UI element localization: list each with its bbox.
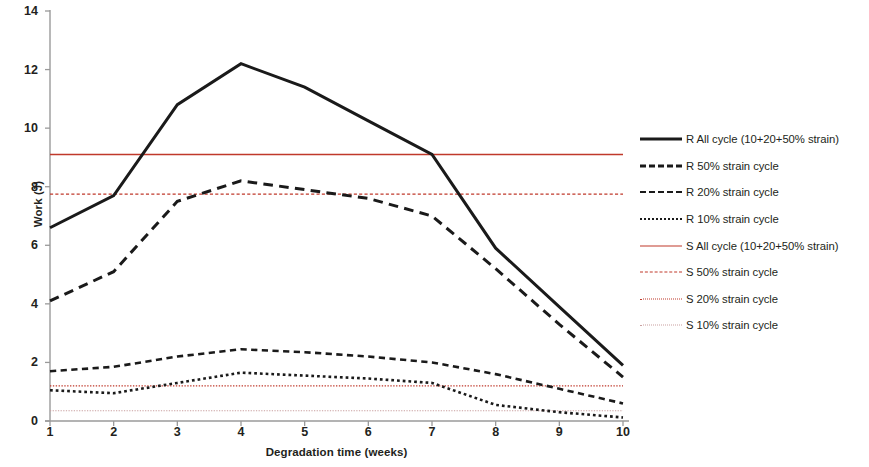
- legend-item[interactable]: R 50% strain cycle: [640, 153, 868, 180]
- legend-line-icon: [640, 133, 682, 145]
- y-tick-label: 2: [0, 355, 38, 369]
- legend-item[interactable]: R All cycle (10+20+50% strain): [640, 126, 868, 153]
- legend-line-sample: [640, 138, 682, 141]
- legend-item-label: R 50% strain cycle: [686, 160, 779, 172]
- legend-line-icon: [640, 266, 682, 278]
- series-line: [50, 64, 623, 366]
- legend-line-icon: [640, 186, 682, 198]
- series-line: [50, 373, 623, 418]
- legend-item-label: R 20% strain cycle: [686, 186, 779, 198]
- legend-item[interactable]: R 10% strain cycle: [640, 206, 868, 233]
- legend-item-label: S 50% strain cycle: [686, 266, 778, 278]
- legend-line-sample: [640, 325, 682, 326]
- y-tick-label: 8: [0, 180, 38, 194]
- x-tick-label: 3: [162, 425, 192, 439]
- legend-item[interactable]: S 10% strain cycle: [640, 312, 868, 339]
- chart-figure: Work (J) Degradation time (weeks) 024681…: [0, 0, 869, 467]
- legend-item[interactable]: S 50% strain cycle: [640, 259, 868, 286]
- legend-line-sample: [640, 272, 682, 273]
- x-tick-label: 1: [35, 425, 65, 439]
- legend-item-label: S 10% strain cycle: [686, 319, 778, 331]
- x-tick-label: 6: [353, 425, 383, 439]
- series-line: [50, 181, 623, 377]
- x-tick-label: 2: [99, 425, 129, 439]
- legend-item-label: S All cycle (10+20+50% strain): [686, 240, 838, 252]
- legend-line-icon: [640, 213, 682, 225]
- x-tick-label: 7: [417, 425, 447, 439]
- legend-line-sample: [640, 191, 682, 193]
- legend-line-icon: [640, 293, 682, 305]
- x-tick-label: 8: [481, 425, 511, 439]
- chart-legend: R All cycle (10+20+50% strain)R 50% stra…: [640, 126, 868, 339]
- y-tick-label: 10: [0, 121, 38, 135]
- legend-item-label: S 20% strain cycle: [686, 293, 778, 305]
- legend-item[interactable]: S All cycle (10+20+50% strain): [640, 232, 868, 259]
- legend-item[interactable]: R 20% strain cycle: [640, 179, 868, 206]
- legend-line-sample: [640, 164, 682, 167]
- x-tick-label: 5: [290, 425, 320, 439]
- legend-line-sample: [640, 298, 682, 299]
- y-tick-label: 12: [0, 63, 38, 77]
- legend-item-label: R All cycle (10+20+50% strain): [686, 133, 839, 145]
- legend-line-icon: [640, 160, 682, 172]
- x-axis-title: Degradation time (weeks): [50, 446, 623, 458]
- y-tick-label: 0: [0, 414, 38, 428]
- legend-line-sample: [640, 245, 682, 246]
- x-tick-label: 9: [544, 425, 574, 439]
- x-tick-label: 4: [226, 425, 256, 439]
- legend-line-icon: [640, 240, 682, 252]
- y-tick-label: 6: [0, 238, 38, 252]
- legend-line-icon: [640, 319, 682, 331]
- legend-item[interactable]: S 20% strain cycle: [640, 286, 868, 313]
- x-tick-label: 10: [608, 425, 638, 439]
- legend-line-sample: [640, 218, 682, 220]
- y-tick-label: 14: [0, 4, 38, 18]
- legend-item-label: R 10% strain cycle: [686, 213, 779, 225]
- y-tick-label: 4: [0, 297, 38, 311]
